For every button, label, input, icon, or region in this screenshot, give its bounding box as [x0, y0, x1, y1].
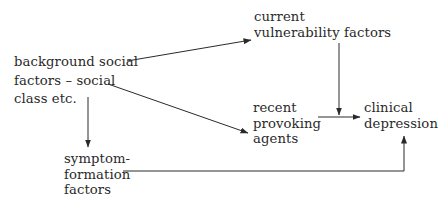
node-line: factors – social [14, 73, 138, 89]
node-line: current [254, 9, 391, 25]
node-recent-provoking-agents: recent provoking agents [253, 100, 321, 147]
node-line: vulnerability factors [254, 25, 391, 41]
node-line: formation [64, 167, 130, 183]
node-symptom-formation-factors: symptom- formation factors [64, 151, 130, 198]
node-line: symptom- [64, 151, 130, 167]
node-current-vulnerability-factors: current vulnerability factors [254, 9, 391, 40]
node-line: agents [253, 131, 321, 147]
node-line: clinical [364, 100, 438, 116]
node-line: recent [253, 100, 321, 116]
node-line: provoking [253, 116, 321, 132]
node-background-social-factors: background social factors – social class… [14, 54, 138, 107]
node-line: depression [364, 116, 438, 132]
node-line: background social [14, 54, 138, 70]
node-line: class etc. [14, 91, 138, 107]
node-line: factors [64, 182, 130, 198]
node-clinical-depression: clinical depression [364, 100, 438, 131]
edge-background-to-vulnerability [127, 40, 251, 61]
